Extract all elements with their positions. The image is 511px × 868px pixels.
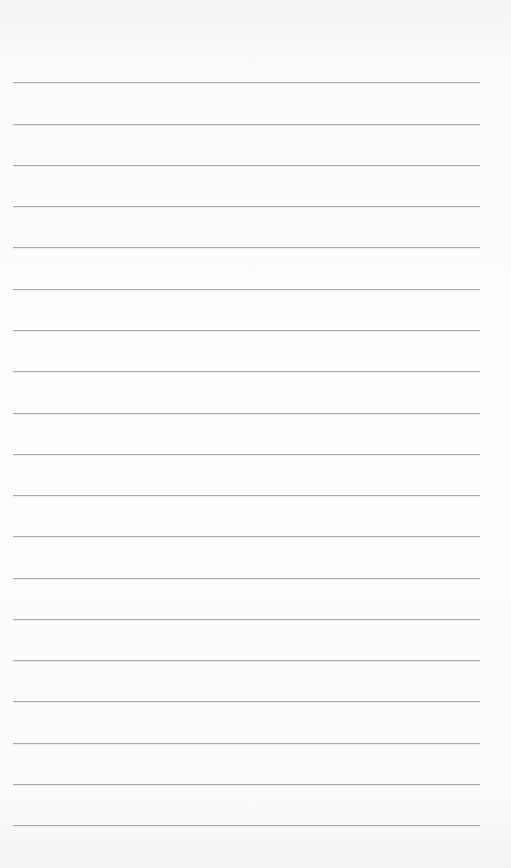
ruled-line bbox=[13, 165, 480, 166]
ruled-line bbox=[13, 743, 480, 744]
lined-paper-sheet bbox=[0, 0, 511, 868]
ruled-line bbox=[13, 82, 480, 83]
ruled-line bbox=[13, 495, 480, 496]
ruled-line bbox=[13, 619, 480, 620]
ruled-line bbox=[13, 289, 480, 290]
ruled-line bbox=[13, 701, 480, 702]
ruled-line bbox=[13, 825, 480, 826]
ruled-line bbox=[13, 247, 480, 248]
ruled-line bbox=[13, 536, 480, 537]
ruled-line bbox=[13, 330, 480, 331]
ruled-line bbox=[13, 371, 480, 372]
ruled-line bbox=[13, 784, 480, 785]
ruled-line bbox=[13, 578, 480, 579]
ruled-line bbox=[13, 124, 480, 125]
ruled-line bbox=[13, 206, 480, 207]
ruled-line bbox=[13, 454, 480, 455]
ruled-line bbox=[13, 660, 480, 661]
ruled-line bbox=[13, 413, 480, 414]
